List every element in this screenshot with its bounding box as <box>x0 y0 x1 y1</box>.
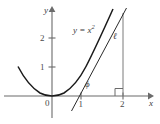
right-angle-marker-icon <box>115 89 123 97</box>
origin-label: 0 <box>45 99 50 108</box>
parabola-curve <box>18 9 113 96</box>
x-tick-label-1: 1 <box>79 100 84 109</box>
y-axis-label: y <box>44 6 48 15</box>
math-figure: y x 0 1 2 1 2 y = x2 ℓ ϕ <box>0 0 160 124</box>
curve-equation-label: y = x2 <box>73 26 95 35</box>
angle-phi-label: ϕ <box>85 80 90 89</box>
tangent-line-label: ℓ <box>113 32 117 41</box>
y-tick-label-2: 2 <box>40 34 45 43</box>
x-tick-label-2: 2 <box>120 100 125 109</box>
curve-equation-base: y = x <box>73 25 92 35</box>
y-tick-label-1: 1 <box>40 63 45 72</box>
x-axis-label: x <box>149 99 153 108</box>
y-axis-arrowhead <box>49 6 56 12</box>
curve-equation-exponent: 2 <box>92 23 95 30</box>
